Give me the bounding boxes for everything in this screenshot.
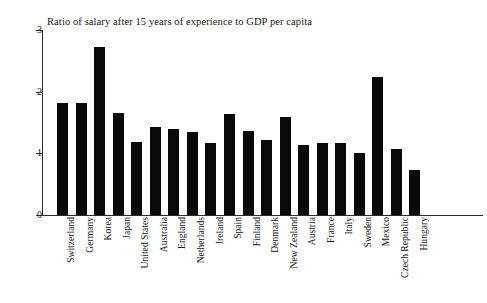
bar	[261, 140, 272, 215]
x-tick-label: Spain	[233, 217, 243, 239]
x-axis-labels: SwitzerlandGermanyKoreaJapanUnited State…	[43, 217, 483, 303]
x-tick-label: Australia	[159, 217, 169, 252]
y-tick-label: 0	[16, 210, 42, 220]
x-tick-label: Ireland	[215, 217, 225, 244]
x-tick-label: New Zealand	[289, 217, 299, 268]
bar	[187, 132, 198, 215]
x-tick-label: Germany	[85, 217, 95, 253]
y-tick-label: 1	[16, 148, 42, 158]
x-tick-label: Finland	[252, 217, 262, 246]
bar	[168, 129, 179, 215]
plot-area	[43, 30, 483, 215]
x-tick-label: Korea	[103, 217, 113, 240]
x-tick-label: Italy	[344, 217, 354, 235]
bar	[391, 149, 402, 215]
x-axis-line	[42, 215, 483, 216]
bar	[298, 145, 309, 215]
bar	[354, 153, 365, 215]
x-tick-label: Austria	[307, 217, 317, 245]
x-tick-label: Japan	[122, 217, 132, 239]
x-tick-label: Czech Republic	[400, 217, 410, 278]
bar	[317, 143, 328, 215]
x-tick-label: England	[177, 217, 187, 249]
x-tick-label: France	[326, 217, 336, 243]
bar-chart-figure: Ratio of salary after 15 years of experi…	[0, 0, 487, 303]
x-tick-label: United States	[140, 217, 150, 268]
bar	[113, 113, 124, 215]
x-tick-label: Sweden	[363, 217, 373, 247]
bar	[150, 127, 161, 215]
bar	[131, 142, 142, 215]
y-tick-label: 3	[16, 25, 42, 35]
bar	[224, 114, 235, 215]
bar	[76, 103, 87, 215]
bar	[205, 143, 216, 215]
chart-title: Ratio of salary after 15 years of experi…	[47, 16, 312, 28]
x-tick-label: Netherlands	[196, 217, 206, 263]
x-tick-label: Switzerland	[66, 217, 76, 263]
y-tick-label: 2	[16, 87, 42, 97]
x-tick-label: Denmark	[270, 217, 280, 253]
bar	[372, 77, 383, 215]
bar	[243, 131, 254, 215]
bar	[335, 143, 346, 215]
x-tick-label: Mexico	[381, 217, 391, 246]
bar	[280, 117, 291, 215]
bar	[57, 103, 68, 215]
x-tick-label: Hungary	[419, 217, 429, 251]
bar	[409, 170, 420, 215]
bar	[94, 47, 105, 215]
